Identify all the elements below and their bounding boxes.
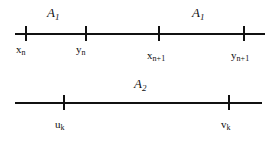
interval-diagram: A1 A1 xn yn xn+1 yn+1 A2 uk vk [0,0,273,143]
point-label-v-k-subscript: k [227,123,231,132]
set-label-a1-left-subscript: 1 [55,12,60,22]
tick-x-n-plus-1 [158,26,160,41]
point-label-y-n: yn [76,44,86,57]
tick-y-n-plus-1 [243,26,245,41]
point-label-y-n-subscript: n [82,48,86,57]
point-label-x-n-plus-1-subscript: n+1 [153,54,166,63]
tick-v-k [228,95,230,110]
point-label-u-k-subscript: k [61,123,65,132]
tick-u-k [63,95,65,110]
point-label-y-n-plus-1-subscript: n+1 [237,54,250,63]
point-label-u-k: uk [55,119,65,132]
set-label-a1-right: A1 [192,6,204,22]
point-label-x-n-plus-1: xn+1 [147,50,165,63]
set-label-a1-left: A1 [47,6,59,22]
set-label-a2-name: A [134,76,142,91]
number-line-bottom [15,102,262,104]
point-label-x-n: xn [16,44,26,57]
set-label-a2: A2 [134,77,146,93]
tick-x-n [25,26,27,41]
number-line-top [15,33,265,35]
tick-y-n [85,26,87,41]
set-label-a1-right-subscript: 1 [200,12,205,22]
point-label-x-n-subscript: n [22,48,26,57]
set-label-a1-left-name: A [47,5,55,20]
point-label-v-k: vk [221,119,231,132]
point-label-y-n-plus-1: yn+1 [231,50,249,63]
set-label-a2-subscript: 2 [142,83,147,93]
set-label-a1-right-name: A [192,5,200,20]
